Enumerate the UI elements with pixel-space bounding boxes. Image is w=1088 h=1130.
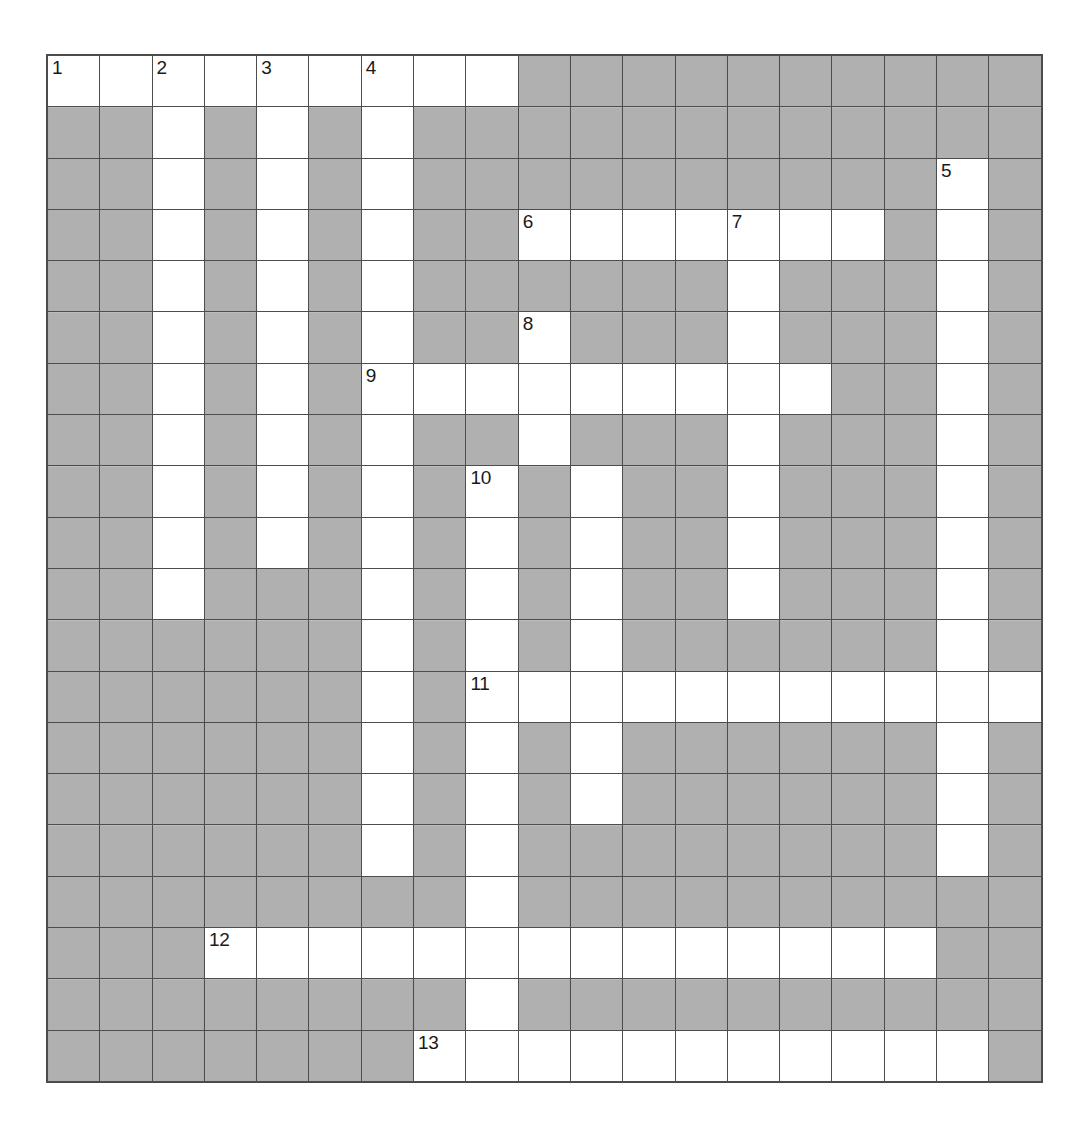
crossword-cell-open[interactable] <box>152 107 204 158</box>
crossword-cell-open[interactable]: 10 <box>466 466 518 517</box>
crossword-cell-open[interactable] <box>518 415 570 466</box>
crossword-cell-open[interactable] <box>727 261 779 312</box>
crossword-cell-open[interactable] <box>152 517 204 568</box>
crossword-cell-open[interactable] <box>361 825 413 876</box>
crossword-cell-open[interactable] <box>466 620 518 671</box>
crossword-cell-open[interactable] <box>570 363 622 414</box>
crossword-cell-open[interactable]: 8 <box>518 312 570 363</box>
crossword-cell-open[interactable] <box>518 363 570 414</box>
crossword-cell-open[interactable] <box>257 415 309 466</box>
crossword-cell-open[interactable] <box>361 261 413 312</box>
crossword-cell-open[interactable] <box>937 568 989 619</box>
crossword-cell-open[interactable] <box>780 671 832 722</box>
crossword-cell-open[interactable] <box>937 620 989 671</box>
crossword-grid[interactable]: 12345678910111213 <box>47 55 1042 1082</box>
crossword-cell-open[interactable] <box>257 363 309 414</box>
crossword-cell-open[interactable] <box>727 415 779 466</box>
crossword-cell-open[interactable] <box>937 671 989 722</box>
crossword-cell-open[interactable] <box>414 928 466 979</box>
crossword-cell-open[interactable] <box>466 517 518 568</box>
crossword-cell-open[interactable] <box>937 774 989 825</box>
crossword-cell-open[interactable] <box>937 312 989 363</box>
crossword-cell-open[interactable] <box>727 928 779 979</box>
crossword-cell-open[interactable]: 2 <box>152 56 204 107</box>
crossword-cell-open[interactable] <box>257 158 309 209</box>
crossword-cell-open[interactable] <box>257 261 309 312</box>
crossword-cell-open[interactable] <box>414 56 466 107</box>
crossword-cell-open[interactable] <box>570 671 622 722</box>
crossword-cell-open[interactable] <box>466 1030 518 1081</box>
crossword-cell-open[interactable] <box>152 261 204 312</box>
crossword-cell-open[interactable] <box>466 56 518 107</box>
crossword-cell-open[interactable] <box>257 517 309 568</box>
crossword-cell-open[interactable] <box>937 261 989 312</box>
crossword-cell-open[interactable] <box>466 928 518 979</box>
crossword-cell-open[interactable]: 5 <box>937 158 989 209</box>
crossword-cell-open[interactable] <box>675 1030 727 1081</box>
crossword-cell-open[interactable] <box>937 415 989 466</box>
crossword-cell-open[interactable] <box>727 568 779 619</box>
crossword-cell-open[interactable] <box>570 928 622 979</box>
crossword-cell-open[interactable] <box>727 1030 779 1081</box>
crossword-cell-open[interactable] <box>100 56 152 107</box>
crossword-cell-open[interactable] <box>570 1030 622 1081</box>
crossword-cell-open[interactable] <box>832 671 884 722</box>
crossword-cell-open[interactable] <box>937 209 989 260</box>
crossword-cell-open[interactable] <box>727 312 779 363</box>
crossword-cell-open[interactable] <box>780 928 832 979</box>
crossword-cell-open[interactable] <box>623 209 675 260</box>
crossword-cell-open[interactable] <box>361 722 413 773</box>
crossword-cell-open[interactable] <box>884 928 936 979</box>
crossword-cell-open[interactable] <box>570 568 622 619</box>
crossword-cell-open[interactable] <box>623 671 675 722</box>
crossword-cell-open[interactable] <box>466 568 518 619</box>
crossword-cell-open[interactable] <box>937 722 989 773</box>
crossword-cell-open[interactable]: 1 <box>48 56 100 107</box>
crossword-cell-open[interactable]: 9 <box>361 363 413 414</box>
crossword-cell-open[interactable] <box>727 517 779 568</box>
crossword-cell-open[interactable] <box>309 928 361 979</box>
crossword-cell-open[interactable] <box>361 107 413 158</box>
crossword-cell-open[interactable] <box>152 312 204 363</box>
crossword-cell-open[interactable] <box>727 671 779 722</box>
crossword-cell-open[interactable] <box>989 671 1041 722</box>
crossword-cell-open[interactable] <box>832 928 884 979</box>
crossword-cell-open[interactable] <box>518 1030 570 1081</box>
crossword-cell-open[interactable] <box>361 209 413 260</box>
crossword-cell-open[interactable] <box>937 363 989 414</box>
crossword-cell-open[interactable] <box>466 722 518 773</box>
crossword-cell-open[interactable] <box>152 568 204 619</box>
crossword-cell-open[interactable] <box>361 568 413 619</box>
crossword-cell-open[interactable] <box>466 876 518 927</box>
crossword-cell-open[interactable] <box>884 671 936 722</box>
crossword-cell-open[interactable] <box>570 466 622 517</box>
crossword-cell-open[interactable] <box>570 722 622 773</box>
crossword-cell-open[interactable] <box>466 774 518 825</box>
crossword-cell-open[interactable] <box>309 56 361 107</box>
crossword-cell-open[interactable] <box>937 517 989 568</box>
crossword-cell-open[interactable]: 7 <box>727 209 779 260</box>
crossword-cell-open[interactable] <box>361 312 413 363</box>
crossword-cell-open[interactable] <box>675 363 727 414</box>
crossword-cell-open[interactable] <box>466 825 518 876</box>
crossword-cell-open[interactable] <box>361 158 413 209</box>
crossword-cell-open[interactable] <box>570 517 622 568</box>
crossword-cell-open[interactable] <box>152 158 204 209</box>
crossword-cell-open[interactable] <box>152 363 204 414</box>
crossword-cell-open[interactable] <box>204 56 256 107</box>
crossword-cell-open[interactable]: 6 <box>518 209 570 260</box>
crossword-cell-open[interactable] <box>937 825 989 876</box>
crossword-cell-open[interactable] <box>361 928 413 979</box>
crossword-cell-open[interactable] <box>623 363 675 414</box>
crossword-cell-open[interactable] <box>937 1030 989 1081</box>
crossword-cell-open[interactable] <box>623 1030 675 1081</box>
crossword-cell-open[interactable] <box>518 928 570 979</box>
crossword-cell-open[interactable] <box>623 928 675 979</box>
crossword-cell-open[interactable] <box>257 107 309 158</box>
crossword-cell-open[interactable] <box>780 1030 832 1081</box>
crossword-cell-open[interactable]: 11 <box>466 671 518 722</box>
crossword-cell-open[interactable] <box>152 415 204 466</box>
crossword-cell-open[interactable] <box>361 466 413 517</box>
crossword-cell-open[interactable]: 12 <box>204 928 256 979</box>
crossword-cell-open[interactable] <box>361 415 413 466</box>
